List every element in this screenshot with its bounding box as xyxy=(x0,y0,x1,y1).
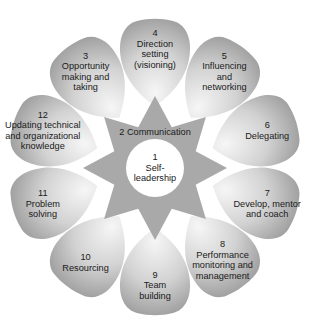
communication-label: 2 Communication xyxy=(119,127,191,137)
competency-flower-diagram: 4Directionsetting(visioning)5Influencing… xyxy=(0,0,311,332)
